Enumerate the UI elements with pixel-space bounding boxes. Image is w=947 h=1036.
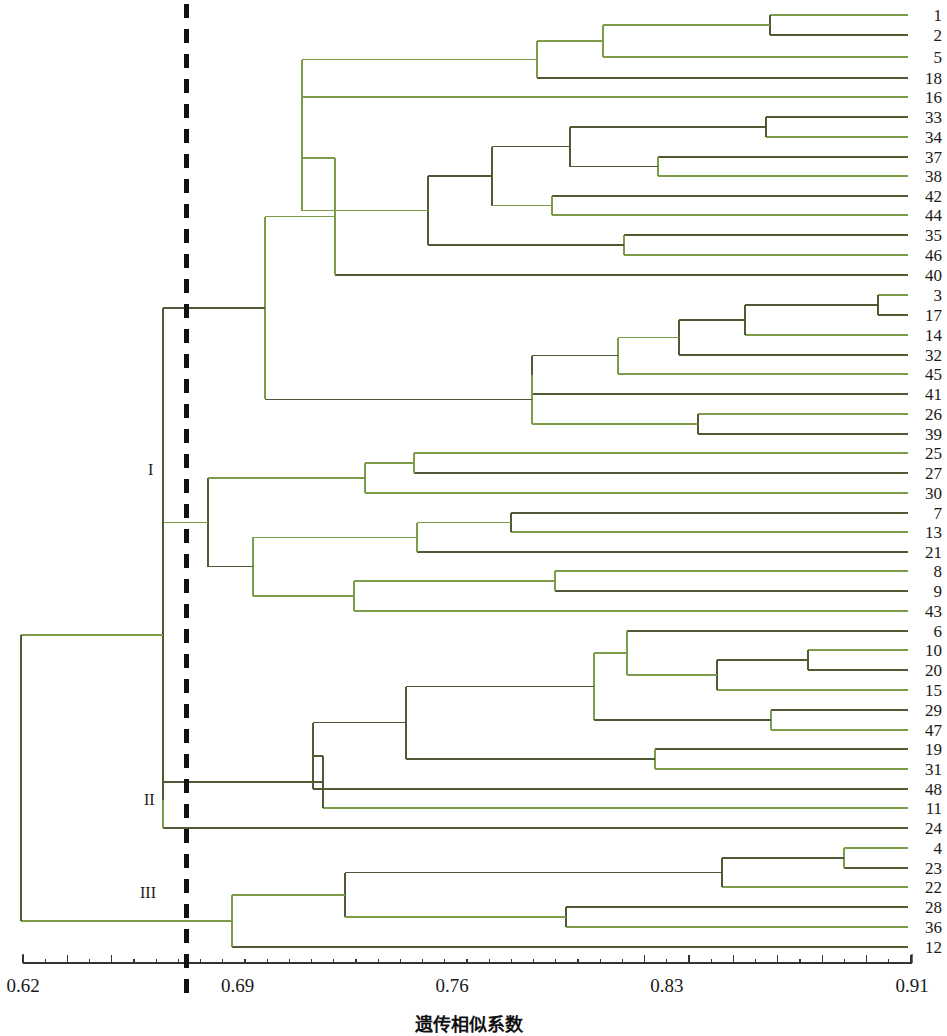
leaf-label-40: 40 <box>914 267 942 284</box>
leaf-label-19: 19 <box>914 741 942 758</box>
leaf-label-3: 3 <box>914 287 942 304</box>
leaf-label-10: 10 <box>914 642 942 659</box>
leaf-label-47: 47 <box>914 722 942 739</box>
leaf-label-35: 35 <box>914 227 942 244</box>
leaf-label-37: 37 <box>914 149 942 166</box>
leaf-label-2: 2 <box>914 27 942 44</box>
leaf-label-11: 11 <box>914 800 942 817</box>
leaf-label-13: 13 <box>914 524 942 541</box>
leaf-label-18: 18 <box>914 70 942 87</box>
leaf-label-15: 15 <box>914 682 942 699</box>
leaf-label-26: 26 <box>914 406 942 423</box>
x-axis-title: 遗传相似系数 <box>0 1010 937 1036</box>
leaf-label-36: 36 <box>914 919 942 936</box>
leaf-label-1: 1 <box>914 7 942 24</box>
leaf-label-44: 44 <box>914 207 942 224</box>
leaf-label-6: 6 <box>914 623 942 640</box>
leaf-label-43: 43 <box>914 603 942 620</box>
x-tick-label-4: 0.91 <box>877 975 947 997</box>
leaf-label-30: 30 <box>914 485 942 502</box>
leaf-label-5: 5 <box>914 49 942 66</box>
leaf-label-31: 31 <box>914 761 942 778</box>
leaf-label-28: 28 <box>914 899 942 916</box>
leaf-label-34: 34 <box>914 129 942 146</box>
leaf-label-24: 24 <box>914 820 942 837</box>
leaf-label-14: 14 <box>914 327 942 344</box>
leaf-label-17: 17 <box>914 307 942 324</box>
leaf-label-21: 21 <box>914 544 942 561</box>
x-tick-label-0: 0.62 <box>0 975 58 997</box>
leaf-label-38: 38 <box>914 168 942 185</box>
leaf-label-39: 39 <box>914 426 942 443</box>
x-tick-label-3: 0.83 <box>632 975 702 997</box>
leaf-label-45: 45 <box>914 366 942 383</box>
leaf-label-25: 25 <box>914 445 942 462</box>
x-tick-label-2: 0.76 <box>417 975 487 997</box>
leaf-label-20: 20 <box>914 662 942 679</box>
leaf-label-29: 29 <box>914 702 942 719</box>
leaf-label-32: 32 <box>914 347 942 364</box>
leaf-label-42: 42 <box>914 188 942 205</box>
group-label-i: I <box>148 461 153 479</box>
leaf-label-22: 22 <box>914 879 942 896</box>
leaf-label-4: 4 <box>914 840 942 857</box>
leaf-label-46: 46 <box>914 247 942 264</box>
group-label-ii: II <box>144 791 155 809</box>
leaf-label-27: 27 <box>914 465 942 482</box>
leaf-label-41: 41 <box>914 386 942 403</box>
group-label-iii: III <box>140 884 156 902</box>
leaf-label-12: 12 <box>914 939 942 956</box>
leaf-label-8: 8 <box>914 563 942 580</box>
leaf-label-7: 7 <box>914 505 942 522</box>
leaf-label-48: 48 <box>914 781 942 798</box>
leaf-label-9: 9 <box>914 583 942 600</box>
leaf-label-16: 16 <box>914 89 942 106</box>
leaf-label-33: 33 <box>914 109 942 126</box>
x-tick-label-1: 0.69 <box>203 975 273 997</box>
leaf-label-23: 23 <box>914 860 942 877</box>
